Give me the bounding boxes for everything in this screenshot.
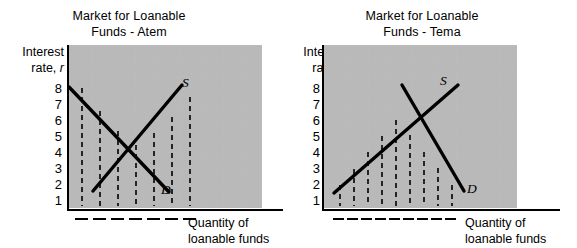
supply-curve-atem: [93, 85, 182, 191]
y-tick-4: 4: [306, 146, 320, 159]
y-tick-4: 4: [48, 146, 62, 159]
x-axis-label-tema: Quantity of loanable funds: [465, 215, 546, 247]
y-axis-line-tema: [322, 45, 324, 210]
x-dash-4: [375, 218, 386, 220]
chart-panel-atem: Market for Loanable Funds - Atem Interes…: [0, 0, 289, 248]
y-tick-3: 3: [48, 162, 62, 175]
y-tick-2: 2: [48, 178, 62, 191]
chart-title-tema: Market for Loanable Funds - Tema: [297, 8, 547, 40]
demand-curve-tema: [402, 85, 464, 191]
x-dash-6: [403, 218, 414, 220]
x-axis-line-tema: [322, 209, 560, 211]
y-tick-7: 7: [48, 98, 62, 111]
x-dash-5: [389, 218, 400, 220]
chart-title-line2: Funds - Atem: [91, 25, 167, 39]
x-axis-label-line2: loanable funds: [465, 232, 546, 246]
x-dash-9: [445, 218, 456, 220]
x-dash-1: [333, 218, 344, 220]
y-tick-6: 6: [306, 114, 320, 127]
x-dash-5: [147, 218, 160, 220]
supply-curve-label-tema: S: [440, 74, 447, 88]
y-axis-label-variable: r: [60, 61, 64, 75]
y-axis-label-line2: rate, r: [31, 61, 64, 75]
x-dash-8: [431, 218, 442, 220]
y-axis-label-line1: Interest: [22, 45, 64, 59]
chart-title-line2: Funds - Tema: [383, 25, 460, 39]
x-dash-1: [75, 218, 88, 220]
x-dash-7: [417, 218, 428, 220]
chart-title-line1: Market for Loanable: [72, 9, 185, 23]
chart-title-line1: Market for Loanable: [365, 9, 478, 23]
x-dash-6: [165, 218, 178, 220]
chart-title-atem: Market for Loanable Funds - Atem: [4, 8, 254, 40]
x-axis-label-line2: loanable funds: [188, 232, 269, 246]
y-axis-label-atem: Interest rate, r: [8, 44, 64, 76]
y-tick-6: 6: [48, 114, 62, 127]
y-axis-line-atem: [67, 45, 69, 210]
y-tick-1: 1: [48, 194, 62, 207]
plot-area-tema: [324, 45, 517, 208]
x-axis-label-line1: Quantity of: [465, 216, 525, 230]
supply-curve-label-atem: S: [182, 76, 189, 90]
x-dash-3: [111, 218, 124, 220]
y-tick-3: 3: [306, 162, 320, 175]
demand-curve-label-tema: D: [467, 182, 477, 196]
y-tick-8: 8: [306, 82, 320, 95]
x-axis-line-atem: [67, 209, 283, 211]
x-axis-label-atem: Quantity of loanable funds: [188, 215, 269, 247]
y-tick-2: 2: [306, 178, 320, 191]
y-tick-5: 5: [306, 130, 320, 143]
curves-tema: [324, 45, 517, 208]
x-dash-2: [347, 218, 358, 220]
x-axis-label-line1: Quantity of: [188, 216, 248, 230]
y-tick-7: 7: [306, 98, 320, 111]
demand-curve-label-atem: D: [161, 183, 171, 197]
y-tick-1: 1: [306, 194, 320, 207]
x-dash-4: [129, 218, 142, 220]
x-dash-2: [93, 218, 106, 220]
demand-curve-atem: [69, 87, 169, 192]
y-tick-5: 5: [48, 130, 62, 143]
y-tick-8: 8: [48, 82, 62, 95]
x-dash-3: [361, 218, 372, 220]
chart-panel-tema: Market for Loanable Funds - Tema Interes…: [289, 0, 577, 248]
